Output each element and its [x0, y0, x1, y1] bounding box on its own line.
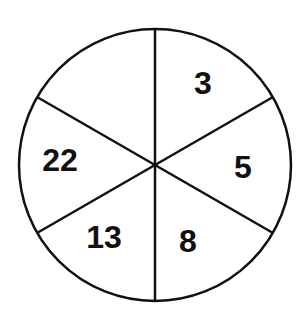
divided-circle-diagram: 3 5 8 13 22	[0, 0, 302, 332]
section-label-bottom-left: 13	[86, 219, 122, 255]
section-label-top-right: 3	[194, 65, 212, 101]
section-label-left: 22	[42, 142, 78, 178]
section-label-bottom-right: 8	[179, 223, 197, 259]
section-label-right: 5	[234, 149, 252, 185]
